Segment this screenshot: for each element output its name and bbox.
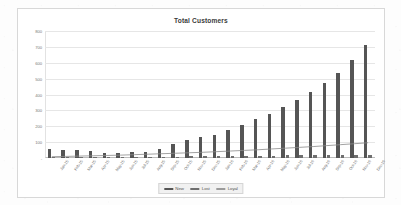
legend-label: Loyal bbox=[228, 186, 238, 191]
legend-label: New bbox=[175, 186, 183, 191]
x-axis-tick-label: May-16 bbox=[279, 159, 290, 172]
x-axis-labels: Jan-15Feb-15Mar-15Apr-15May-15Jun-15Jul-… bbox=[45, 159, 375, 185]
x-axis-tick-label: Oct-15 bbox=[182, 159, 192, 171]
legend-item-loyal[interactable]: Loyal bbox=[217, 186, 238, 191]
y-axis-tick-label: 600 bbox=[35, 60, 42, 65]
chart-legend: NewLostLoyal bbox=[158, 183, 243, 194]
x-axis-tick-label: Feb-16 bbox=[238, 159, 249, 172]
x-axis-tick-label: Nov-15 bbox=[196, 159, 207, 172]
legend-swatch-icon bbox=[164, 188, 173, 190]
y-axis-tick-label: 800 bbox=[35, 29, 42, 34]
x-axis-tick-label: Apr-15 bbox=[100, 159, 110, 171]
loyal-trend-line bbox=[45, 31, 375, 158]
legend-item-lost[interactable]: Lost bbox=[191, 186, 210, 191]
x-axis-tick-label: Jul-16 bbox=[306, 159, 316, 170]
x-axis-tick-label: Sep-16 bbox=[334, 159, 345, 172]
y-axis-tick-label: 300 bbox=[35, 108, 42, 113]
x-axis-tick-label: Jun-15 bbox=[127, 159, 138, 171]
y-axis-tick-label: 200 bbox=[35, 124, 42, 129]
loyal-line-path bbox=[52, 143, 368, 157]
x-axis-tick-label: Sep-15 bbox=[169, 159, 180, 172]
x-axis-tick-label: Nov-16 bbox=[361, 159, 372, 172]
chart-container: Total Customers -10020030040050060070080… bbox=[17, 8, 385, 198]
y-axis-tick-label: 500 bbox=[35, 76, 42, 81]
legend-item-new[interactable]: New bbox=[164, 186, 183, 191]
x-axis-tick-label: Jan-15 bbox=[59, 159, 70, 171]
x-axis-tick-label: Dec-16 bbox=[375, 159, 386, 172]
legend-swatch-icon bbox=[191, 188, 200, 190]
y-axis-tick-label: - bbox=[41, 156, 42, 161]
x-axis-tick-label: Feb-15 bbox=[73, 159, 84, 172]
x-axis-tick-label: Dec-15 bbox=[210, 159, 221, 172]
y-axis-tick-label: 400 bbox=[35, 92, 42, 97]
x-axis-tick-label: Apr-16 bbox=[265, 159, 275, 171]
plot-area: -100200300400500600700800 bbox=[45, 31, 375, 158]
y-axis-tick-label: 100 bbox=[35, 140, 42, 145]
x-axis-tick-label: Oct-16 bbox=[347, 159, 357, 171]
chart-screenshot: Total Customers -10020030040050060070080… bbox=[0, 0, 401, 205]
x-axis-tick-label: Aug-16 bbox=[320, 159, 331, 172]
y-axis-tick-label: 700 bbox=[35, 44, 42, 49]
x-axis-tick-label: Aug-15 bbox=[155, 159, 166, 172]
x-axis-tick-label: Mar-15 bbox=[86, 159, 97, 172]
x-axis-tick-label: Mar-16 bbox=[251, 159, 262, 172]
legend-swatch-icon bbox=[217, 188, 226, 190]
legend-label: Lost bbox=[202, 186, 210, 191]
x-axis-tick-label: May-15 bbox=[114, 159, 125, 172]
x-axis-tick-label: Jan-16 bbox=[224, 159, 235, 171]
chart-title: Total Customers bbox=[18, 17, 384, 24]
x-axis-tick-label: Jul-15 bbox=[141, 159, 151, 170]
x-axis-tick-label: Jun-16 bbox=[292, 159, 303, 171]
